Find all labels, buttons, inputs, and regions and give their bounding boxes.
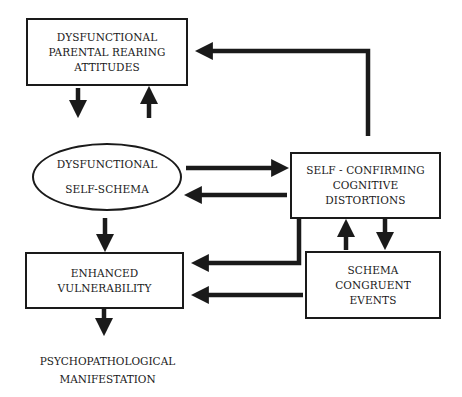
node-enhanced-vulnerability: ENHANCED VULNERABILITY xyxy=(25,252,184,309)
node-label-line: PSYCHOPATHOLOGICAL xyxy=(20,352,195,370)
node-label-line: SELF - CONFIRMING xyxy=(306,163,425,178)
node-label-line: ATTITUDES xyxy=(74,60,139,75)
node-label-line: SCHEMA xyxy=(348,263,399,278)
node-label-line: DISTORTIONS xyxy=(325,193,405,208)
arrow-distortions-to-parental xyxy=(203,51,368,136)
node-dysfunctional-self-schema: DYSFUNCTIONAL SELF-SCHEMA xyxy=(32,143,182,211)
node-label-line: ENHANCED xyxy=(71,266,139,281)
node-self-confirming-cognitive-distortions: SELF - CONFIRMING COGNITIVE DISTORTIONS xyxy=(290,152,441,219)
node-label-line: SELF-SCHEMA xyxy=(65,177,149,202)
arrow-distortions-to-vulnerability xyxy=(199,218,299,263)
node-label-line: PARENTAL REARING xyxy=(48,45,165,60)
node-label-line: COGNITIVE xyxy=(333,178,399,193)
node-schema-congruent-events: SCHEMA CONGRUENT EVENTS xyxy=(305,251,441,319)
node-label-line: DYSFUNCTIONAL xyxy=(57,152,158,177)
node-label-line: EVENTS xyxy=(350,293,397,308)
node-label-line: VULNERABILITY xyxy=(58,281,152,296)
node-parental-rearing-attitudes: DYSFUNCTIONAL PARENTAL REARING ATTITUDES xyxy=(26,18,188,86)
node-psychopathological-manifestation: PSYCHOPATHOLOGICAL MANIFESTATION xyxy=(20,352,195,388)
node-label-line: CONGRUENT xyxy=(335,278,411,293)
node-label-line: DYSFUNCTIONAL xyxy=(57,30,158,45)
node-label-line: MANIFESTATION xyxy=(20,370,195,388)
